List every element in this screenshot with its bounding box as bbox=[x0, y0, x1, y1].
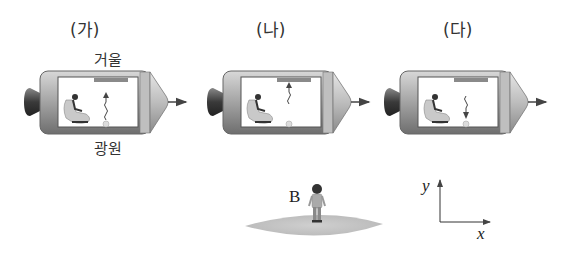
rocket-ga bbox=[24, 71, 186, 134]
coordinate-axes bbox=[440, 180, 490, 222]
ground-observer-b bbox=[245, 184, 383, 236]
diagram-canvas bbox=[0, 0, 581, 261]
rocket-da bbox=[384, 71, 546, 134]
rocket-na bbox=[207, 71, 369, 134]
